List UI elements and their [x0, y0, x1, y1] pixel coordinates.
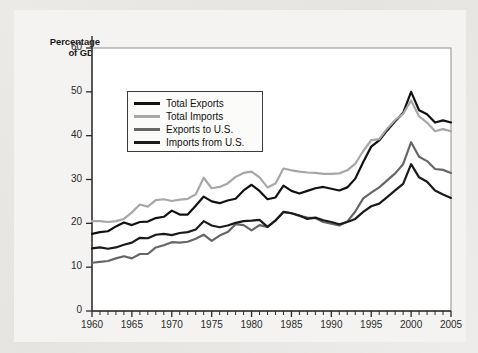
x-axis-tick-label: 1965 — [112, 319, 152, 330]
legend-color-swatch — [134, 102, 160, 105]
y-axis-tick-label: 20 — [52, 216, 82, 227]
x-axis-tick-label: 1970 — [152, 319, 192, 330]
x-axis-tick-label: 2005 — [431, 319, 471, 330]
y-axis-tick-label: 50 — [52, 85, 82, 96]
x-axis-tick-label: 1990 — [311, 319, 351, 330]
figure-container: Percentage of GDP Total ExportsTotal Imp… — [0, 0, 478, 353]
y-axis-tick-label: 30 — [52, 173, 82, 184]
legend-color-swatch — [134, 141, 160, 144]
chart-paper: Percentage of GDP Total ExportsTotal Imp… — [14, 10, 466, 342]
legend-color-swatch — [134, 128, 160, 131]
x-axis-tick-label: 1995 — [351, 319, 391, 330]
legend-item-label: Total Imports — [166, 111, 223, 123]
legend-item: Exports to U.S. — [134, 123, 256, 136]
x-axis-tick-label: 1975 — [192, 319, 232, 330]
y-axis-tick-label: 40 — [52, 129, 82, 140]
x-axis-tick-label: 1960 — [72, 319, 112, 330]
y-axis-tick-label: 10 — [52, 260, 82, 271]
legend-color-swatch — [134, 115, 160, 118]
x-axis-tick-label: 1980 — [232, 319, 272, 330]
legend-item: Total Exports — [134, 97, 256, 110]
chart-legend: Total ExportsTotal ImportsExports to U.S… — [127, 91, 263, 152]
legend-item-label: Imports from U.S. — [166, 137, 244, 149]
legend-item: Total Imports — [134, 110, 256, 123]
y-axis-tick-label: 60 — [52, 41, 82, 52]
legend-item-label: Total Exports — [166, 98, 224, 110]
legend-item-label: Exports to U.S. — [166, 124, 233, 136]
legend-item: Imports from U.S. — [134, 136, 256, 149]
x-axis-tick-label: 2000 — [391, 319, 431, 330]
plot-area-background — [92, 48, 451, 311]
x-axis-tick-label: 1985 — [271, 319, 311, 330]
y-axis-tick-label: 0 — [52, 304, 82, 315]
